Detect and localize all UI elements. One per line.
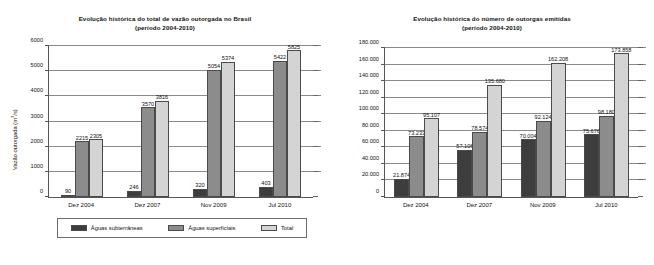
y-axis-tick-label: 80.000 [362,122,379,128]
bar-value-label: 70.004 [520,133,537,139]
bar-sup[interactable]: 2215 [75,141,89,197]
y-axis-tick-label: 20.000 [362,171,379,177]
y-axis-tick-label: 4000 [31,87,43,93]
bar-tot[interactable]: 95.107 [424,118,439,197]
chart-title-left-line1: Evolução histórica do total de vazão out… [79,15,252,22]
bar-value-label: 73.233 [408,130,425,136]
y-axis-tick-right [638,97,643,98]
y-axis-tick-right [638,80,643,81]
x-axis-label: Dez 2007 [114,202,180,208]
bar-tot[interactable]: 5374 [221,62,235,197]
bar-tot[interactable]: 2305 [89,139,103,197]
bar-value-label: 403 [261,180,270,186]
bar-sup[interactable]: 98.180 [599,116,614,197]
legend-label: Total [281,225,293,231]
y-axis-tick-label: 60.000 [362,138,379,144]
plot-area-right: 020.00040.00060.00080.000100.000120.0001… [384,48,638,198]
legend-left: Águas subterrâneasÁguas superficiaisTota… [57,218,307,238]
bar-sub[interactable]: 246 [127,191,141,197]
plot-axes-right: 020.00040.00060.00080.000100.000120.0001… [384,48,638,198]
bar-sup[interactable]: 5054 [207,70,221,197]
legend-item-sup[interactable]: Águas superficiais [168,225,235,231]
chart-title-right: Evolução histórica do número de outorgas… [330,0,654,32]
bar-value-label: 5825 [288,44,300,50]
legend-swatch-sup [168,225,184,231]
bar-sup[interactable]: 5422 [273,61,287,197]
bar-sub[interactable]: 70.004 [521,139,536,197]
chart-numero-outorgas: Evolução histórica do número de outorgas… [330,0,654,265]
chart-title-left-line2: (período 2004-2010) [0,23,330,32]
chart-title-right-line1: Evolução histórica do número de outorgas… [413,15,571,22]
bar-value-label: 162.208 [548,56,568,62]
bar-sup[interactable]: 92.124 [536,121,551,197]
bar-sup[interactable]: 78.574 [472,132,487,197]
y-axis-tick-right [313,70,318,71]
y-axis-tick-label: 5000 [31,62,43,68]
bar-sub[interactable]: 21.874 [394,179,409,197]
bar-group: 21.87473.23395.107 [385,48,448,197]
bar-sub[interactable]: 90 [61,195,75,197]
y-axis-tick-right [638,130,643,131]
y-axis-tick-label: 140.000 [359,72,379,78]
bar-value-label: 78.574 [471,125,488,131]
y-axis-tick-label: 3000 [31,113,43,119]
legend-swatch-tot [261,225,277,231]
bar-sub[interactable]: 75.676 [584,134,599,197]
y-axis-tick-label: 120.000 [359,89,379,95]
bar-value-label: 95.107 [423,112,440,118]
bar-tot[interactable]: 3816 [155,101,169,197]
bar-sub[interactable]: 403 [259,187,273,197]
y-axis-title-left: Vazão outorgada (m3/s) [10,109,18,170]
plot-axes-left: 0100020003000400050006000 90221523052463… [48,46,313,198]
bar-sup[interactable]: 73.233 [409,136,424,197]
bar-sub[interactable]: 320 [193,189,207,197]
bar-value-label: 135.680 [485,78,505,84]
bar-tot[interactable]: 135.680 [487,85,502,197]
y-axis-tick-label: 40.000 [362,155,379,161]
y-axis-tick-label: 180.000 [359,39,379,45]
bar-tot[interactable]: 5825 [287,50,301,197]
y-axis-tick-label: 0 [40,188,43,194]
bar-tot[interactable]: 173.858 [614,53,629,197]
bar-value-label: 21.874 [393,172,410,178]
y-axis-tick-right [638,113,643,114]
bar-value-label: 92.124 [535,114,552,120]
y-axis-tick-label: 1000 [31,163,43,169]
chart-vazao-outorgada: Evolução histórica do total de vazão out… [0,0,330,265]
y-axis-title-left-tail: /s) [12,109,18,115]
bar-value-label: 90 [65,188,71,194]
bar-value-label: 98.180 [598,109,615,115]
figure-container: Evolução histórica do total de vazão out… [0,0,654,265]
bar-sup[interactable]: 3570 [141,107,155,197]
y-axis-tick-right [313,196,318,197]
y-axis-tick-label: 160.000 [359,56,379,62]
x-axis-label: Dez 2007 [448,202,512,208]
x-axis-label: Jul 2010 [247,202,313,208]
y-axis-tick-right [638,64,643,65]
y-axis-tick-right [638,163,643,164]
y-axis-tick-label: 6000 [31,37,43,43]
bar-sub[interactable]: 57.106 [457,150,472,197]
bar-group: 40354225825 [247,46,313,197]
legend-label: Águas superficiais [188,225,235,231]
legend-swatch-sub [71,225,87,231]
y-axis-tick-right [638,196,643,197]
plot-area-left: 0100020003000400050006000 90221523052463… [48,46,313,198]
y-axis-tick-right [638,47,643,48]
legend-item-sub[interactable]: Águas subterrâneas [71,225,143,231]
y-axis-tick-label: 0 [376,188,379,194]
x-axis-label: Dez 2004 [48,202,114,208]
x-axis-label: Jul 2010 [575,202,639,208]
bar-value-label: 2215 [76,135,88,141]
bar-value-label: 3816 [156,94,168,100]
chart-title-right-line2: (período 2004-2010) [330,23,654,32]
bar-group: 24635703816 [115,46,181,197]
x-axis-label: Dez 2004 [384,202,448,208]
y-axis-tick-right [313,95,318,96]
legend-item-tot[interactable]: Total [261,225,293,231]
bar-tot[interactable]: 162.208 [551,63,566,197]
legend-label: Águas subterrâneas [91,225,143,231]
bar-value-label: 2305 [90,133,102,139]
x-axis-label: Nov 2009 [511,202,575,208]
x-axis-labels-left: Dez 2004Dez 2007Nov 2009Jul 2010 [48,202,313,208]
